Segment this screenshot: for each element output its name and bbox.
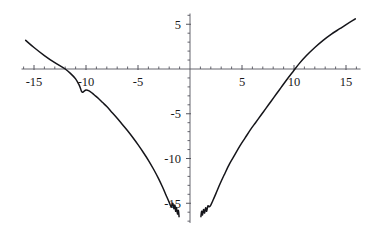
x-tick-label: -5: [133, 75, 143, 89]
x-tick-label: -15: [26, 75, 43, 89]
chart-canvas: -15-10-551015 5-5-10-15: [0, 0, 365, 229]
y-tick-label: 5: [175, 18, 181, 32]
curve-right-branch: [201, 19, 355, 217]
x-tick-label: 15: [340, 75, 353, 89]
data-curves: [26, 19, 356, 217]
y-tick-label: -5: [171, 107, 181, 121]
y-axis-tick-labels: 5-5-10-15: [164, 18, 181, 211]
x-tick-label: 5: [239, 75, 245, 89]
axis-group: [22, 14, 361, 223]
chart-figure: -15-10-551015 5-5-10-15: [0, 0, 365, 229]
curve-left-branch: [26, 40, 179, 216]
y-tick-label: -10: [164, 152, 181, 166]
